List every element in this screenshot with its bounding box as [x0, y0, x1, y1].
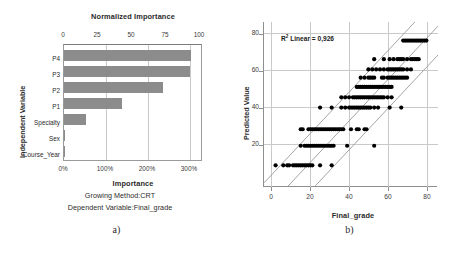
- panel-a-top-tick-25: 25: [83, 31, 111, 38]
- panel-a-top-tick-75: 75: [151, 31, 179, 38]
- panel-b-ytickmark-40: [259, 108, 263, 109]
- panel-a-normalized-importance: Normalized Importance Independent Variab…: [0, 0, 233, 256]
- panel-a-top-tick-0: 0: [49, 31, 77, 38]
- panel-b-y-tick-60: 60: [239, 66, 259, 73]
- panel-b-xtickmark-0: [271, 187, 272, 191]
- panel-b-r-squared-annotation: R2 Linear = 0,926: [281, 34, 334, 42]
- panel-b-gridlines: [264, 22, 438, 187]
- panel-b-ytickmark-20: [259, 145, 263, 146]
- panel-b-ytickmark-60: [259, 71, 263, 72]
- panel-b-xtickmark-60: [388, 187, 389, 191]
- panel-b-plot-area: [263, 22, 437, 187]
- bar-p2: [64, 82, 163, 93]
- panel-b-letter: b): [233, 224, 466, 235]
- panel-a-bottom-tick-300: 300%: [175, 165, 203, 172]
- panel-b-x-tick-20: 20: [296, 193, 324, 200]
- panel-b-scatter-canvas: [264, 22, 438, 187]
- panel-a-top-tick-100: 100: [185, 31, 213, 38]
- panel-a-category-sex: Sex: [2, 135, 60, 142]
- panel-a-gridline-200: [148, 45, 149, 160]
- panel-b-x-tick-80: 80: [413, 193, 441, 200]
- bar-course-year: [64, 146, 65, 157]
- panel-a-category-p2: P2: [2, 87, 60, 94]
- panel-b-y-tick-20: 20: [239, 140, 259, 147]
- bar-sex: [64, 130, 65, 141]
- panel-b-ytickmark-80: [259, 34, 263, 35]
- panel-a-category-p3: P3: [2, 71, 60, 78]
- panel-b-x-tick-0: 0: [257, 193, 285, 200]
- panel-b-xtickmark-40: [349, 187, 350, 191]
- panel-b-predicted-vs-final: Predicted Value 80 60 40 20: [233, 0, 466, 256]
- panel-b-y-tick-40: 40: [239, 103, 259, 110]
- panel-b-xtickmark-20: [310, 187, 311, 191]
- panel-b-y-tick-80: 80: [239, 29, 259, 36]
- panel-b-fit-lines: [264, 22, 438, 187]
- panel-b-x-axis-title: Final_grade: [273, 211, 433, 220]
- panel-a-bottom-tick-200: 200%: [133, 165, 161, 172]
- panel-a-growing-method: Growing Method:CRT: [20, 191, 220, 200]
- bar-p3: [64, 66, 190, 77]
- panel-a-top-tick-50: 50: [117, 31, 145, 38]
- panel-b-x-tick-60: 60: [374, 193, 402, 200]
- panel-a-dependent-variable: Dependent Variable:Final_grade: [10, 203, 230, 212]
- panel-a-category-p1: P1: [2, 103, 60, 110]
- panel-a-bottom-tick-100: 100%: [91, 165, 119, 172]
- panel-a-bottom-tick-0: 0%: [49, 165, 77, 172]
- panel-a-category-course-year: Course_Year: [2, 151, 60, 158]
- panel-a-top-axis-title: Normalized Importance: [48, 12, 218, 21]
- panel-b-xtickmark-80: [427, 187, 428, 191]
- panel-a-gridline-300: [190, 45, 191, 160]
- panel-a-bottom-axis-title: Importance: [48, 179, 218, 188]
- panel-a-category-specialty: Specialty: [2, 119, 60, 126]
- bar-p4: [64, 50, 191, 61]
- r2-value-text: Linear = 0,926: [288, 35, 334, 42]
- panel-a-letter: a): [0, 224, 233, 235]
- panel-a-category-p4: P4: [2, 55, 60, 62]
- figure-root: Normalized Importance Independent Variab…: [0, 0, 466, 256]
- panel-b-y-axis-title: Predicted Value: [242, 86, 251, 140]
- bar-p1: [64, 98, 122, 109]
- panel-b-x-tick-40: 40: [335, 193, 363, 200]
- bar-specialty: [64, 114, 86, 125]
- panel-a-plot-area: [63, 44, 202, 161]
